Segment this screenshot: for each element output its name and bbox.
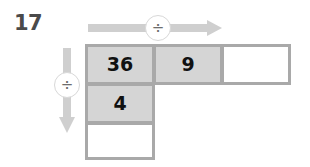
grid-cell-r1c2[interactable]: 9 <box>153 44 223 85</box>
worksheet-canvas: 17 ÷ ÷ 36 9 4 <box>0 0 310 167</box>
grid-cell-r1c3-answer[interactable] <box>221 44 291 85</box>
grid-cell-r3c1-answer[interactable] <box>85 122 155 160</box>
problem-number: 17 <box>14 13 42 34</box>
grid-cell-r2c1[interactable]: 4 <box>85 83 155 124</box>
horizontal-arrow-head <box>207 20 222 36</box>
divide-icon-vertical: ÷ <box>54 72 80 98</box>
divide-icon-horizontal: ÷ <box>145 15 171 41</box>
grid-cell-r1c1[interactable]: 36 <box>85 44 155 85</box>
vertical-arrow-head <box>59 117 75 133</box>
